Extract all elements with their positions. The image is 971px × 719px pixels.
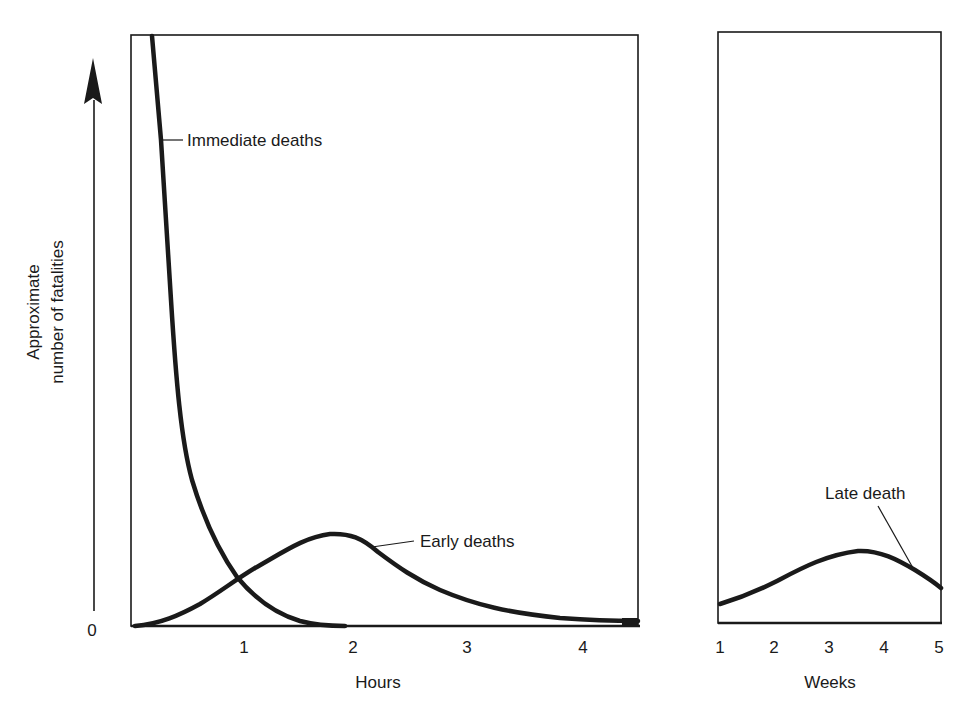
hours-tick-3: 3 <box>462 638 471 657</box>
early-deaths-tail-blot <box>622 618 638 626</box>
fatalities-chart: Approximate number of fatalities 0 Immed… <box>0 0 971 719</box>
weeks-axis-label: Weeks <box>804 673 856 692</box>
y-tick-zero: 0 <box>87 621 96 640</box>
early-deaths-label: Early deaths <box>420 532 515 551</box>
weeks-tick-1: 1 <box>715 638 724 657</box>
weeks-panel: Late death 1 2 3 4 5 Weeks <box>715 32 943 692</box>
late-death-label: Late death <box>825 484 905 503</box>
early-deaths-leader <box>372 541 414 547</box>
y-axis-label-line2: number of fatalities <box>48 240 67 384</box>
hours-panel-frame <box>131 35 638 626</box>
weeks-tick-3: 3 <box>824 638 833 657</box>
hours-panel: Immediate deaths Early deaths 1 2 3 4 Ho… <box>131 35 640 692</box>
hours-axis-label: Hours <box>355 673 400 692</box>
weeks-tick-5: 5 <box>934 638 943 657</box>
weeks-tick-4: 4 <box>879 638 888 657</box>
hours-tick-2: 2 <box>348 638 357 657</box>
weeks-panel-frame <box>718 32 941 623</box>
weeks-tick-2: 2 <box>769 638 778 657</box>
y-axis-arrow-head-icon <box>84 58 102 104</box>
hours-tick-1: 1 <box>239 638 248 657</box>
early-deaths-curve <box>135 534 638 626</box>
hours-tick-4: 4 <box>578 638 587 657</box>
immediate-deaths-label: Immediate deaths <box>187 131 322 150</box>
y-axis-label-line1: Approximate <box>24 264 43 359</box>
